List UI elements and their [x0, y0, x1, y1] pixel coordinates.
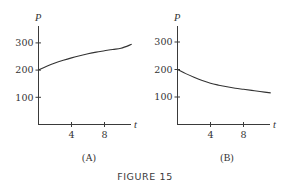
panel-label: (B): [220, 152, 233, 164]
figure-caption: FIGURE 15: [117, 171, 173, 182]
y-tick-label: 200: [15, 64, 33, 75]
data-curve: [39, 44, 132, 70]
y-axis-label: P: [34, 12, 42, 23]
chart-panel-b: 100200300 48 P t (B): [154, 12, 277, 164]
x-tick-label: 4: [68, 129, 74, 140]
y-tick-label: 100: [154, 91, 172, 102]
y-ticks: 100200300: [154, 36, 180, 102]
x-tick-label: 8: [101, 129, 107, 140]
x-tick-label: 4: [207, 129, 213, 140]
y-tick-label: 100: [15, 92, 33, 103]
y-tick-label: 200: [154, 64, 172, 75]
panel-label: (A): [82, 152, 96, 164]
data-curve: [178, 70, 271, 93]
y-ticks: 100200300: [15, 37, 41, 102]
y-axis-label: P: [173, 12, 181, 23]
y-tick-label: 300: [15, 37, 33, 48]
y-tick-label: 300: [154, 36, 172, 47]
chart-panel-a: 100200300 48 P t (A): [15, 12, 138, 164]
x-axis-label: t: [273, 119, 277, 130]
x-tick-label: 8: [240, 129, 246, 140]
figure-15: 100200300 48 P t (A) 100200300 48 P t (B…: [0, 0, 292, 188]
x-axis-label: t: [134, 119, 138, 130]
